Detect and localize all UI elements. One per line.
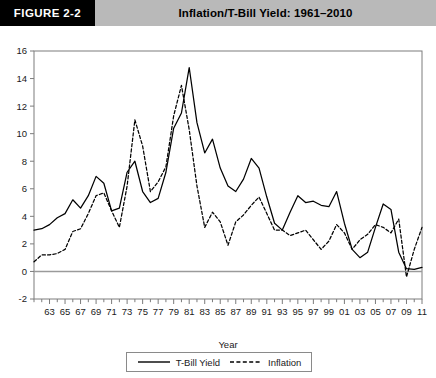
series-line-inflation [34,85,422,277]
legend-label-t-bill-yield: T-Bill Yield [176,357,220,368]
x-axis-ticks [34,299,422,304]
x-tick-label: 63 [44,306,55,317]
figure-header: FIGURE 2-2 Inflation/T-Bill Yield: 1961–… [0,0,436,26]
y-tick-label: 6 [22,183,27,194]
x-tick-label: 91 [262,306,273,317]
y-tick-label: 16 [16,45,27,56]
y-tick-label: 8 [22,156,27,167]
dashed-line-swatch [229,358,263,366]
x-tick-label: 11 [417,306,427,317]
y-tick-label: 0 [22,266,27,277]
x-tick-label: 83 [199,306,210,317]
x-tick-label: 87 [230,306,241,317]
x-axis-tick-labels: 6365676971737577798183858789919395979901… [44,306,427,317]
x-tick-label: 85 [215,306,226,317]
x-tick-label: 09 [401,306,412,317]
x-tick-label: 67 [75,306,86,317]
x-tick-label: 79 [168,306,179,317]
figure-title: Inflation/T-Bill Yield: 1961–2010 [95,0,436,26]
x-tick-label: 89 [246,306,257,317]
x-tick-label: 07 [386,306,397,317]
x-tick-label: 65 [60,306,71,317]
series-line-t-bill-yield [34,68,422,270]
x-tick-label: 05 [370,306,381,317]
x-tick-label: 75 [137,306,148,317]
x-tick-label: 01 [339,306,350,317]
y-axis-tick-labels: -20246810121416 [16,45,27,304]
x-tick-label: 99 [324,306,335,317]
chart-container: -20246810121416 636567697173757779818385… [0,26,436,378]
chart-legend: T-Bill Yield Inflation [126,352,312,372]
y-tick-label: -2 [19,293,27,304]
x-tick-label: 95 [293,306,304,317]
legend-item-t-bill-yield: T-Bill Yield [137,357,220,368]
solid-line-swatch [137,358,171,366]
y-tick-label: 12 [16,101,27,112]
x-axis-title: Year [218,339,237,350]
plot-frame [34,51,422,299]
x-tick-label: 97 [308,306,319,317]
y-tick-label: 10 [16,128,27,139]
x-tick-label: 81 [184,306,195,317]
line-chart: -20246810121416 636567697173757779818385… [0,26,436,378]
x-tick-label: 69 [91,306,102,317]
y-tick-label: 2 [22,238,27,249]
data-series-group [34,68,422,277]
x-tick-label: 03 [355,306,366,317]
legend-label-inflation: Inflation [268,357,301,368]
x-tick-label: 73 [122,306,133,317]
legend-item-inflation: Inflation [229,357,301,368]
x-tick-label: 93 [277,306,288,317]
x-tick-label: 77 [153,306,164,317]
y-tick-label: 14 [16,73,27,84]
x-tick-label: 71 [106,306,117,317]
y-tick-label: 4 [22,211,27,222]
figure-number-badge: FIGURE 2-2 [0,0,95,26]
